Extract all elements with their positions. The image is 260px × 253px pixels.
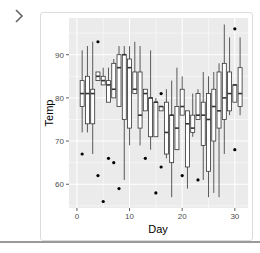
outlier-point: [181, 174, 184, 177]
x-tick-label: 0: [75, 212, 80, 221]
x-axis: 0102030: [75, 208, 240, 221]
x-axis-title: Day: [148, 223, 168, 235]
outlier-point: [160, 165, 163, 168]
x-tick-label: 30: [230, 212, 239, 221]
outlier-point: [117, 187, 120, 190]
outlier-point: [233, 27, 236, 30]
outlier-point: [144, 157, 147, 160]
y-tick-label: 80: [55, 94, 64, 103]
x-tick-label: 20: [178, 212, 187, 221]
y-tick-label: 60: [55, 180, 64, 189]
outlier-point: [160, 92, 163, 95]
divider: [0, 241, 260, 243]
x-tick-label: 10: [125, 212, 134, 221]
outlier-point: [196, 178, 199, 181]
outlier-point: [96, 174, 99, 177]
outlier-point: [107, 157, 110, 160]
outlier-point: [233, 148, 236, 151]
outlier-point: [81, 152, 84, 155]
y-axis: 60708090: [55, 51, 69, 190]
outlier-point: [112, 161, 115, 164]
y-tick-label: 70: [55, 137, 64, 146]
outlier-point: [96, 40, 99, 43]
outlier-point: [102, 200, 105, 203]
outlier-point: [154, 191, 157, 194]
boxplot-chart: 60708090 0102030 Day Temp: [0, 0, 260, 253]
y-tick-label: 90: [55, 51, 64, 60]
y-axis-title: Temp: [43, 100, 55, 127]
